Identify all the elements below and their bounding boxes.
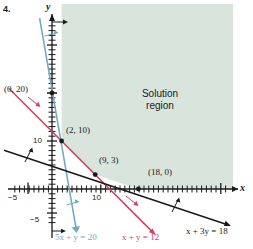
x-tick-label-10: 10: [92, 193, 101, 202]
equation-label-5x-plus-y: 5x + y = 20: [55, 232, 97, 242]
y-tick-label-neg5: −5: [30, 215, 39, 224]
equation-label-x-plus-3y: x + 3y = 18: [186, 226, 228, 236]
point-2-10: [59, 139, 64, 144]
point-label-2-10: (2, 10): [66, 125, 90, 135]
point-label-18-0: (18, 0): [148, 167, 172, 177]
point-0-20: [50, 91, 55, 96]
graph-figure: 4. y x −5 10 10 −5 (0, 20) (2, 10) (9, 3…: [0, 0, 253, 249]
y-axis-label: y: [46, 1, 50, 12]
coordinate-plane: [0, 0, 253, 249]
x-axis-label: x: [240, 182, 245, 193]
y-tick-label-10: 10: [33, 136, 42, 145]
point-18-0: [136, 187, 141, 192]
solution-region-line2: region: [124, 100, 196, 112]
solution-region-line1: Solution: [124, 88, 196, 100]
solution-region-label: Solution region: [124, 88, 196, 112]
point-9-3: [93, 172, 98, 177]
point-label-9-3: (9, 3): [99, 155, 119, 165]
equation-label-x-plus-y: x + y = 12: [122, 232, 159, 242]
point-label-0-20: (0, 20): [4, 84, 28, 94]
problem-number: 4.: [3, 4, 11, 14]
x-tick-label-neg5: −5: [8, 193, 17, 202]
